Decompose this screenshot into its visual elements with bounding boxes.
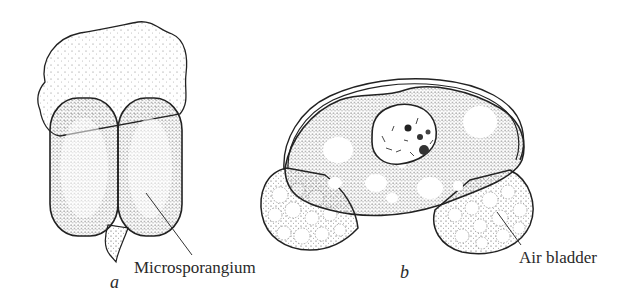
microsporangium-label: Microsporangium <box>134 258 256 278</box>
stalk <box>105 225 128 262</box>
air-bladder-label: Air bladder <box>519 248 597 268</box>
panel-b-label: b <box>400 262 409 283</box>
panel-b-pollen-grain <box>261 79 533 254</box>
panel-a-label: a <box>110 272 119 293</box>
panel-a-microsporophyll <box>38 22 192 262</box>
